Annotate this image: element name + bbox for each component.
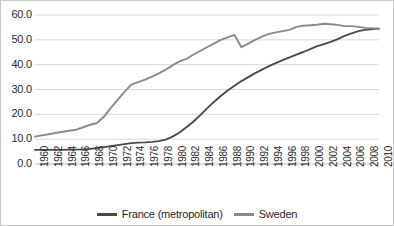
y-axis-tick-label: 50.0 [2, 33, 32, 45]
y-axis-tick-label: 0.0 [2, 157, 32, 169]
x-axis-tick-label: 2002 [328, 146, 339, 167]
x-axis-tick-label: 1980 [177, 146, 188, 167]
y-axis-tick-label: 20.0 [2, 107, 32, 119]
x-axis-tick-label: 1994 [273, 146, 284, 167]
legend-line-swatch [234, 213, 254, 216]
legend-label: France (metropolitan) [122, 208, 223, 220]
x-axis-tick-label: 1962 [53, 146, 64, 167]
legend-entry[interactable]: France (metropolitan) [97, 208, 223, 220]
x-axis-tick-label: 1982 [190, 146, 201, 167]
x-axis-tick-label: 1986 [218, 146, 229, 167]
x-axis-tick-label: 1970 [108, 146, 119, 167]
x-axis-tick-label: 1974 [135, 146, 146, 167]
x-axis-tick-label: 1960 [39, 146, 50, 167]
x-axis-tick-label: 1966 [80, 146, 91, 167]
y-axis-tick-label: 30.0 [2, 83, 32, 95]
series-lines [35, 24, 379, 150]
y-axis-tick-label: 10.0 [2, 132, 32, 144]
x-axis-tick-label: 1990 [245, 146, 256, 167]
x-axis-tick-label: 2006 [355, 146, 366, 167]
x-axis-tick-label: 1998 [300, 146, 311, 167]
x-axis-tick-label: 1978 [163, 146, 174, 167]
x-axis-tick-label: 1992 [259, 146, 270, 167]
series-line [35, 24, 379, 137]
x-axis-tick-label: 1964 [67, 146, 78, 167]
x-axis-tick-label: 2004 [342, 146, 353, 167]
x-axis-tick-label: 1972 [122, 146, 133, 167]
chart-legend: France (metropolitan)Sweden [1, 208, 393, 220]
gridlines [35, 15, 379, 164]
y-axis-tick-label: 40.0 [2, 58, 32, 70]
x-axis-tick-label: 1984 [204, 146, 215, 167]
plot-area [1, 1, 394, 226]
line-chart-figure: 0.010.020.030.040.050.060.0 196019621964… [0, 0, 394, 226]
x-axis-tick-label: 1996 [287, 146, 298, 167]
x-axis-tick-label: 2010 [383, 146, 394, 167]
legend-label: Sweden [259, 208, 298, 220]
x-axis-tick-label: 2008 [369, 146, 380, 167]
x-axis-tick-label: 1968 [94, 146, 105, 167]
y-axis-tick-label: 60.0 [2, 8, 32, 20]
x-axis-tick-label: 2000 [314, 146, 325, 167]
legend-line-swatch [97, 213, 117, 216]
x-axis-tick-label: 1976 [149, 146, 160, 167]
x-axis-tick-label: 1988 [232, 146, 243, 167]
legend-entry[interactable]: Sweden [234, 208, 298, 220]
